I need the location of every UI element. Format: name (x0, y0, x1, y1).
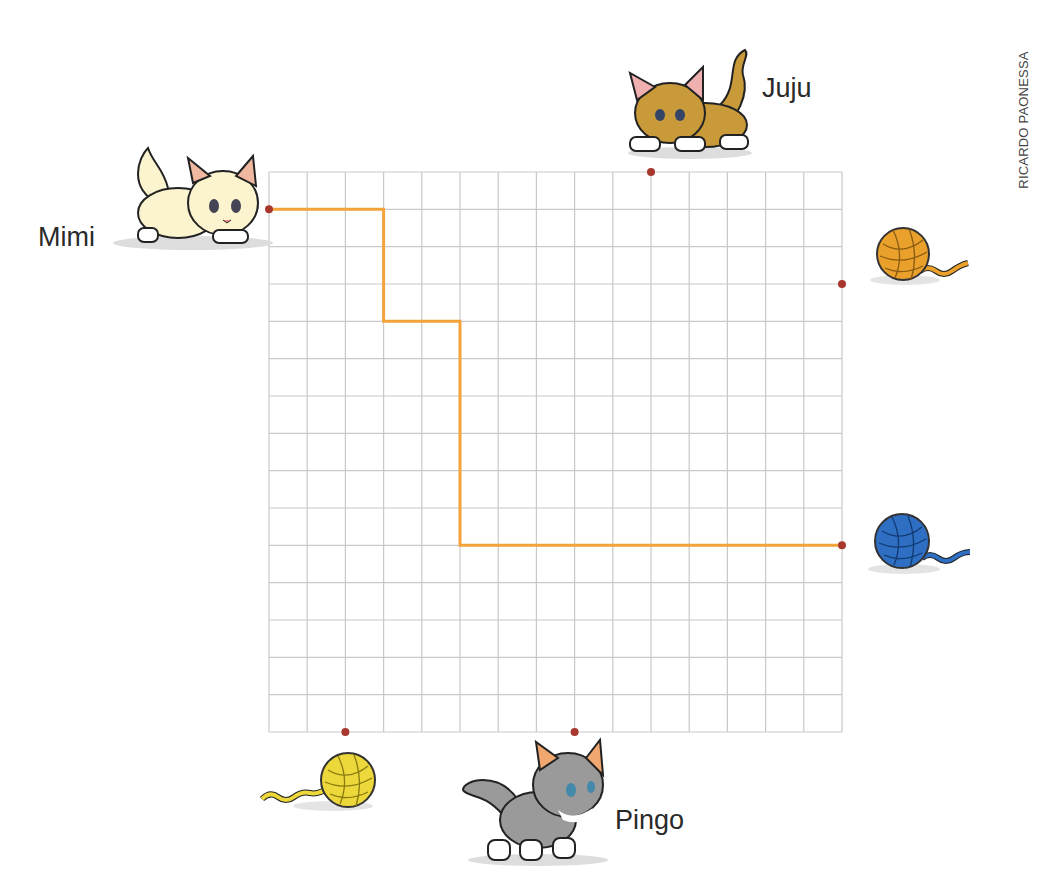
yellow-yarn-ball-illustration (262, 753, 375, 811)
juju-label: Juju (762, 73, 812, 104)
dot-orange-yarn (838, 280, 846, 288)
blue-yarn-ball-illustration (868, 514, 970, 574)
mimi-cat-illustration (113, 148, 273, 250)
dot-juju (647, 168, 655, 176)
dot-blue-yarn (838, 541, 846, 549)
orange-yarn-ball-illustration (870, 228, 968, 285)
dot-pingo (571, 728, 579, 736)
mimi-route-path (269, 209, 842, 545)
endpoint-dots (265, 168, 846, 736)
grid-diagram (0, 0, 1051, 886)
juju-cat-illustration (628, 50, 752, 159)
dot-yellow-yarn (341, 728, 349, 736)
mimi-label: Mimi (38, 222, 95, 253)
grid (269, 172, 842, 732)
pingo-label: Pingo (615, 805, 684, 836)
dot-mimi (265, 205, 273, 213)
pingo-cat-illustration (463, 740, 608, 866)
